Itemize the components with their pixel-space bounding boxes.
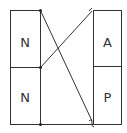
anchor-dot-left-middle: [39, 66, 42, 69]
right-cell-bottom-label: P: [104, 90, 112, 105]
right-column: A P: [94, 11, 122, 125]
anchor-dot-left-top: [39, 9, 42, 12]
right-cell-top-label: A: [103, 35, 112, 50]
connection-line-top-to-bottom: [41, 11, 93, 122]
endpoint-mark-top: [89, 8, 92, 11]
connections: [41, 8, 95, 127]
matching-diagram: N N A P: [0, 0, 127, 133]
left-column: N N: [11, 11, 41, 125]
left-cell-bottom-label: N: [20, 90, 30, 105]
connection-line-middle-to-top: [41, 11, 93, 68]
anchor-dot-left-bottom: [39, 123, 42, 126]
left-cell-top-label: N: [20, 35, 30, 50]
